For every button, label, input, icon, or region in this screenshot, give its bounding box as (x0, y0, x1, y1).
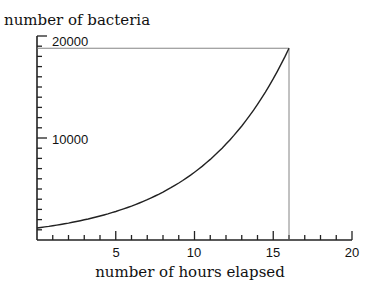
x-axis-title: number of hours elapsed (95, 263, 285, 281)
x-tick-label-20: 20 (345, 245, 359, 260)
x-tick-label-5: 5 (112, 245, 119, 260)
x-tick-label-15: 15 (266, 245, 280, 260)
y-tick-label-10000: 10000 (52, 132, 88, 147)
y-tick-label-20000: 20000 (52, 34, 88, 49)
y-axis-title: number of bacteria (4, 11, 150, 29)
x-tick-label-10: 10 (187, 245, 201, 260)
bacteria-growth-chart: number of bacteria 20000 10000 5 10 15 2… (0, 0, 380, 298)
